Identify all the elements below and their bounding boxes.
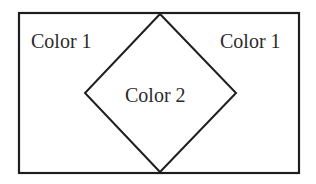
diagram-canvas: Color 1 Color 1 Color 2 xyxy=(0,0,316,184)
label-right-outer: Color 1 xyxy=(220,30,281,52)
label-left-outer: Color 1 xyxy=(31,30,92,52)
label-center-diamond: Color 2 xyxy=(125,84,186,106)
